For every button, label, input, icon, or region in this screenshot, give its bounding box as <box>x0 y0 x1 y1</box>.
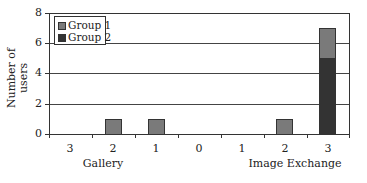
x-tick-label: 1 <box>146 143 166 154</box>
y-tick-label: 8 <box>30 7 42 18</box>
y-tick <box>45 43 49 44</box>
y-tick-label: 4 <box>30 67 42 78</box>
legend-item-group2: Group 2 <box>58 32 111 43</box>
legend-swatch-icon <box>58 34 66 42</box>
y-tick <box>45 104 49 105</box>
y-tick <box>45 13 49 14</box>
bar-exchange-3-group1 <box>319 28 336 59</box>
x-tick <box>264 134 265 138</box>
group-label-image-exchange: Image Exchange <box>245 158 345 170</box>
y-axis-title: Number of users <box>6 38 30 118</box>
x-tick-label: 0 <box>189 143 209 154</box>
group-label-gallery: Gallery <box>73 158 133 170</box>
x-tick <box>178 134 179 138</box>
x-tick <box>135 134 136 138</box>
x-tick <box>49 134 50 138</box>
legend-item-group1: Group 1 <box>58 20 111 31</box>
y-tick <box>45 73 49 74</box>
x-tick <box>349 134 350 138</box>
x-tick-label: 3 <box>318 143 338 154</box>
x-tick-label: 1 <box>232 143 252 154</box>
x-tick-label: 2 <box>275 143 295 154</box>
x-tick-label: 3 <box>60 143 80 154</box>
bar-exchange-3-group2 <box>319 58 336 135</box>
bar-gallery-1-group1 <box>148 119 165 135</box>
legend-swatch-icon <box>58 22 66 30</box>
legend-label: Group 1 <box>68 19 111 31</box>
y-tick-label: 2 <box>30 98 42 109</box>
x-axis <box>45 134 350 135</box>
x-tick <box>307 134 308 138</box>
bar-exchange-2-group1 <box>276 119 293 135</box>
y-axis <box>49 13 50 135</box>
x-tick <box>221 134 222 138</box>
y-tick-label: 6 <box>30 37 42 48</box>
legend: Group 1 Group 2 <box>54 16 106 45</box>
bar-gallery-2-group1 <box>105 119 122 135</box>
y-tick-label: 0 <box>30 128 42 139</box>
x-tick-label: 2 <box>103 143 123 154</box>
legend-label: Group 2 <box>68 31 111 43</box>
x-tick <box>92 134 93 138</box>
